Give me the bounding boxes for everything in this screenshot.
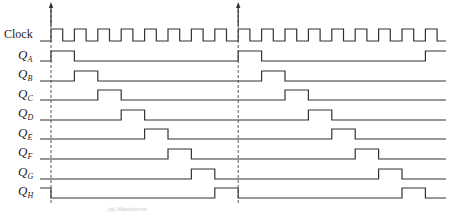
q-g-waveform: [40, 169, 446, 179]
q-c-waveform: [40, 90, 446, 100]
q-h-waveform: [40, 188, 446, 198]
label-qf: QF: [18, 145, 32, 161]
clock-waveform: [40, 29, 446, 41]
q-d-waveform: [40, 110, 446, 120]
label-qh: QH: [18, 184, 33, 200]
q-e-waveform: [40, 129, 446, 139]
label-qg: QG: [18, 165, 33, 181]
label-clock: Clock: [4, 28, 33, 40]
waveform-canvas: [0, 0, 449, 217]
q-b-waveform: [40, 71, 446, 81]
arrow-up-icon: [236, 2, 240, 8]
label-qa: QA: [18, 48, 32, 64]
timing-diagram: Clock QA QB QC QD QE QF QG QH (a) Wavefo…: [0, 0, 449, 217]
q-f-waveform: [40, 149, 446, 159]
arrow-up-icon: [49, 2, 53, 8]
figure-caption: (a) Waveforms: [108, 206, 147, 212]
label-qd: QD: [18, 106, 33, 122]
label-qe: QE: [18, 126, 32, 142]
label-qb: QB: [18, 67, 32, 83]
q-a-waveform: [40, 51, 446, 61]
label-qc: QC: [18, 87, 33, 103]
